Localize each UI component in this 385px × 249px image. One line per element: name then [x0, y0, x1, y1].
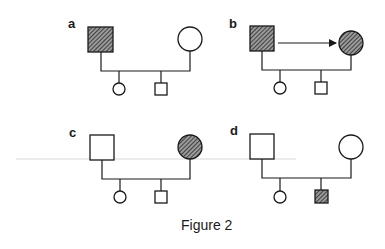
panel-label-b: b	[229, 16, 237, 31]
panel-label-a: a	[68, 16, 76, 31]
son-affected-square	[315, 190, 328, 203]
panel-label-d: d	[230, 123, 238, 138]
mother-unaffected-circle	[339, 135, 363, 159]
marriage-line	[262, 51, 351, 70]
marriage-line	[101, 51, 190, 71]
father-affected-square	[250, 26, 274, 51]
son-unaffected-square	[155, 83, 167, 95]
father-unaffected-square	[250, 134, 274, 159]
panel-label-c: c	[69, 125, 76, 140]
father-unaffected-square	[90, 135, 114, 160]
daughter-unaffected-circle	[274, 82, 286, 94]
panel-a: a	[68, 16, 202, 95]
pedigree-figure: a b c d	[0, 0, 385, 249]
mother-affected-circle	[339, 31, 363, 55]
daughter-unaffected-circle	[113, 83, 125, 95]
marriage-line	[102, 159, 190, 179]
marriage-line	[262, 159, 351, 178]
panel-c: c	[69, 125, 202, 203]
mother-unaffected-circle	[178, 27, 202, 51]
father-affected-square	[88, 27, 113, 52]
daughter-unaffected-circle	[274, 191, 286, 203]
son-unaffected-square	[155, 191, 167, 203]
son-unaffected-square	[315, 82, 327, 94]
figure-caption: Figure 2	[181, 217, 233, 233]
mother-affected-circle	[178, 135, 202, 159]
daughter-unaffected-circle	[114, 191, 126, 203]
panel-b: b	[229, 16, 363, 94]
panel-d: d	[230, 123, 363, 203]
